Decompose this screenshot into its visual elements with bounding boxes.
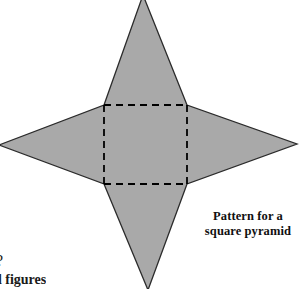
figure-caption: Pattern for a square pyramid xyxy=(198,209,298,239)
square-pyramid-net-figure xyxy=(0,0,301,289)
caption-line-2: square pyramid xyxy=(198,224,298,239)
net-star-shape xyxy=(0,0,297,289)
cropped-question-mark-text: ? xyxy=(0,252,3,270)
caption-line-1: Pattern for a xyxy=(198,209,298,224)
cropped-figures-text: d figures xyxy=(0,271,46,288)
